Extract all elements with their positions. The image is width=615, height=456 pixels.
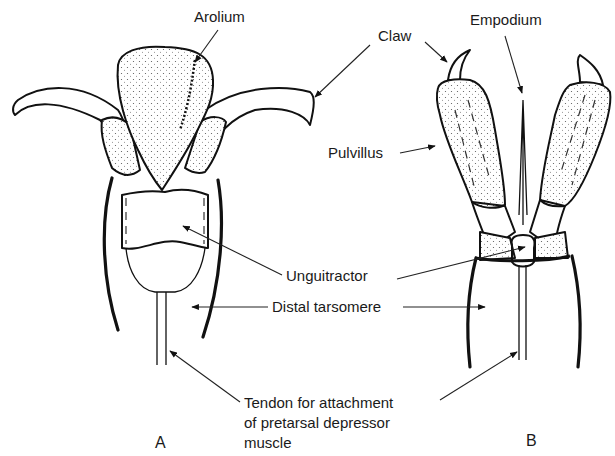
unguitractor-border-a [126, 198, 204, 244]
claw-left-b [448, 50, 470, 80]
leader-pulvillus [400, 146, 435, 153]
leader-claw-right [425, 42, 447, 62]
tarsomere-wall-right-b [572, 256, 580, 367]
tendon-b [519, 265, 526, 360]
leader-unguitractor-b [397, 247, 525, 279]
label-unguitractor: Unguitractor [286, 267, 368, 284]
tarsomere-wall-left-b [468, 258, 476, 367]
label-pulvillus: Pulvillus [328, 144, 383, 161]
label-arolium: Arolium [194, 8, 245, 25]
stippled-base-right-b [535, 232, 568, 258]
panel-a-drawing [13, 47, 314, 365]
panel-label-b: B [526, 432, 537, 449]
label-distal-tarsomere: Distal tarsomere [272, 298, 381, 315]
label-tendon-line3: muscle [244, 434, 292, 451]
empodium-bristle [519, 100, 527, 225]
tarsomere-wall-left-a [104, 178, 118, 330]
leader-tendon-a [170, 351, 240, 402]
distal-sclerite-a [126, 248, 205, 292]
tarsomere-wall-right-a [203, 180, 221, 337]
label-empodium: Empodium [470, 11, 542, 28]
leader-empodium [505, 36, 522, 93]
pulvillus-right [540, 82, 610, 206]
leader-unguitractor-a [183, 226, 282, 275]
label-tendon-line1: Tendon for attachment [244, 394, 394, 411]
tendon-a [157, 292, 166, 365]
claw-right-b [578, 55, 603, 85]
panel-label-a: A [155, 434, 166, 451]
pretarsus-diagram: Arolium Claw Empodium Pulvillus Unguitra… [0, 0, 615, 456]
leader-arolium [195, 30, 218, 62]
panel-b-drawing [437, 50, 610, 367]
label-claw: Claw [378, 27, 412, 44]
label-tendon-line2: of pretarsal depressor [244, 414, 390, 431]
leader-claw-left [315, 45, 370, 97]
pulvillus-left [437, 79, 505, 208]
leader-tendon-b [440, 352, 517, 400]
unguitractor-plate-a [122, 190, 208, 249]
